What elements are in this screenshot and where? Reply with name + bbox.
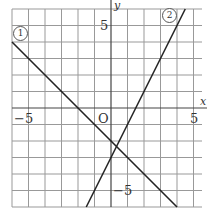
- line-1-marker: 1: [13, 26, 28, 41]
- axes: [12, 0, 207, 207]
- y-axis-label: y: [114, 0, 120, 11]
- x-tick-pos5: 5: [190, 112, 198, 125]
- x-tick-neg5: −5: [14, 112, 33, 125]
- y-tick-neg5: −5: [113, 184, 132, 197]
- x-axis-label: x: [200, 96, 206, 107]
- origin-label: O: [98, 112, 109, 125]
- line-2-marker: 2: [162, 8, 177, 23]
- y-tick-pos5: 5: [100, 19, 108, 32]
